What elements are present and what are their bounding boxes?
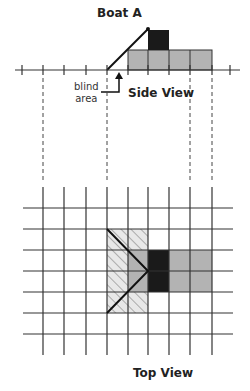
top-view-label: Top View bbox=[133, 366, 193, 380]
boat-cabin-side bbox=[148, 30, 169, 50]
blind-area-label: blind area bbox=[74, 81, 99, 105]
boat-hull-side bbox=[128, 50, 212, 70]
blind-area-line2: area bbox=[74, 93, 99, 105]
top-view bbox=[23, 187, 233, 355]
side-view-label: Side View bbox=[128, 86, 194, 100]
diagram-canvas bbox=[0, 0, 250, 391]
blind-area-line1: blind bbox=[74, 81, 99, 93]
blind-area-arrow bbox=[101, 77, 119, 92]
title-boat-a: Boat A bbox=[97, 6, 142, 20]
side-view bbox=[15, 27, 240, 92]
